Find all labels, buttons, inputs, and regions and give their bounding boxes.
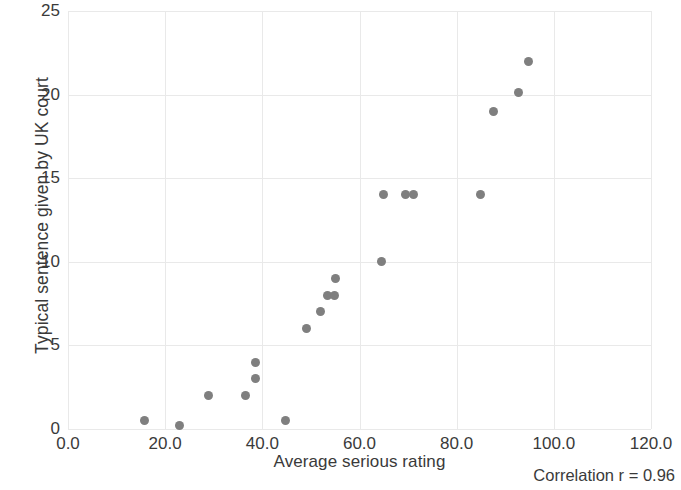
data-point	[302, 324, 311, 333]
gridline-vertical	[554, 11, 555, 429]
correlation-annotation: Correlation r = 0.96	[533, 466, 675, 485]
gridline-vertical	[651, 11, 652, 429]
y-tick-label: 15	[14, 168, 60, 188]
gridline-vertical	[360, 11, 361, 429]
data-point	[476, 190, 485, 199]
gridline-horizontal	[68, 429, 651, 430]
data-point	[401, 190, 410, 199]
x-tick-label: 20.0	[130, 434, 200, 454]
scatter-chart: Typical sentence given by UK court 05101…	[0, 0, 681, 490]
data-point	[316, 307, 325, 316]
y-tick-label: 5	[14, 335, 60, 355]
data-point	[379, 190, 388, 199]
data-point	[514, 88, 523, 97]
data-point	[489, 107, 498, 116]
gridline-vertical	[457, 11, 458, 429]
data-point	[241, 391, 250, 400]
gridline-vertical	[262, 11, 263, 429]
x-tick-label: 80.0	[422, 434, 492, 454]
data-point	[330, 291, 339, 300]
y-tick-label: 25	[14, 1, 60, 21]
x-tick-label: 40.0	[227, 434, 297, 454]
x-tick-label: 60.0	[325, 434, 395, 454]
data-point	[251, 374, 260, 383]
data-point	[377, 257, 386, 266]
x-tick-label: 100.0	[519, 434, 589, 454]
data-point	[331, 274, 340, 283]
data-point	[140, 416, 149, 425]
y-axis-label: Typical sentence given by UK court	[32, 6, 53, 426]
data-point	[409, 190, 418, 199]
plot-area	[68, 11, 651, 429]
data-point	[204, 391, 213, 400]
gridline-vertical	[165, 11, 166, 429]
data-point	[251, 358, 260, 367]
data-point	[524, 57, 533, 66]
y-tick-label: 10	[14, 252, 60, 272]
x-tick-label: 0.0	[33, 434, 103, 454]
x-tick-label: 120.0	[616, 434, 681, 454]
data-point	[281, 416, 290, 425]
gridline-vertical	[68, 11, 69, 429]
y-tick-label: 20	[14, 85, 60, 105]
